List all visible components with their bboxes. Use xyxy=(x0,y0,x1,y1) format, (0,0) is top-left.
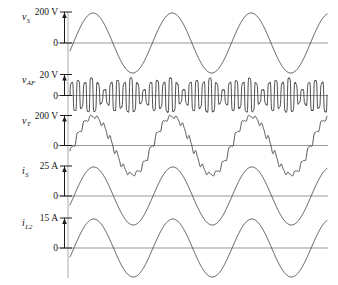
waveform-canvas: 200 V0vS20 V0vAF200 V0vT25 A0iS15 A0iL2 xyxy=(0,0,338,285)
signal-label-vT: vT xyxy=(22,115,32,128)
scale-arrow-vAF xyxy=(62,75,67,80)
zero-label-iL2: 0 xyxy=(53,243,58,253)
scale-arrow-vS xyxy=(62,13,67,18)
signal-subscript-iL2: L2 xyxy=(24,223,33,230)
zero-label-vT: 0 xyxy=(53,141,58,151)
scale-label-vS: 200 V xyxy=(35,7,58,17)
scale-arrow-iL2 xyxy=(62,219,67,224)
signal-label-vAF: vAF xyxy=(22,74,36,87)
zero-label-vS: 0 xyxy=(53,38,58,48)
scale-label-iL2: 15 A xyxy=(40,213,58,223)
scale-label-vAF: 20 V xyxy=(39,70,58,80)
signal-label-vS: vS xyxy=(22,11,31,24)
signal-subscript-vT: T xyxy=(27,120,32,127)
signal-label-iS: iS xyxy=(22,165,29,178)
panels-layer: 200 V0vS20 V0vAF200 V0vT25 A0iS15 A0iL2 xyxy=(22,7,328,278)
scale-label-iS: 25 A xyxy=(40,161,58,171)
scale-label-vT: 200 V xyxy=(35,111,58,121)
signal-subscript-iS: S xyxy=(25,171,29,178)
signal-label-iL2: iL2 xyxy=(22,217,33,230)
waveform-figure: 200 V0vS20 V0vAF200 V0vT25 A0iS15 A0iL2 xyxy=(0,0,338,285)
signal-subscript-vAF: AF xyxy=(26,79,36,86)
scale-arrow-iS xyxy=(62,167,67,172)
signal-subscript-vS: S xyxy=(27,17,31,24)
zero-label-iS: 0 xyxy=(53,191,58,201)
scale-arrow-vT xyxy=(62,116,67,121)
zero-label-vAF: 0 xyxy=(53,91,58,101)
